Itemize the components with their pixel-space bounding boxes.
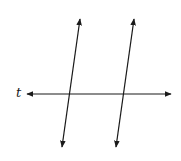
transversal-label: t — [16, 85, 21, 100]
parallel-line-right — [116, 19, 134, 147]
parallel-line-left — [62, 19, 80, 147]
parallel-lines-transversal-diagram — [0, 0, 181, 161]
